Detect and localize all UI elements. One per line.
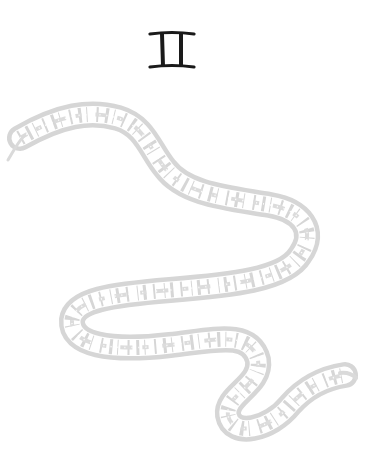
- serpent-ribbon-illustration: [0, 0, 367, 464]
